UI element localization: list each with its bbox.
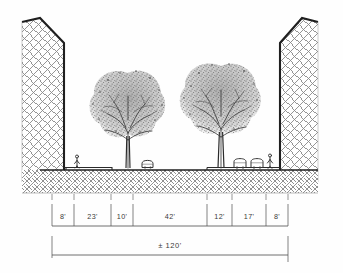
total-dimension-label: ± 120' [158,241,181,250]
dimension-label: 8' [60,212,66,221]
parked-car-right-b [251,159,263,169]
parked-car-right-a [234,159,246,169]
dimension-string-segments: 8'23'10'42'12'17'8' [52,194,288,226]
dimension-label: 17' [244,212,255,221]
dimension-label: 10' [117,212,128,221]
building-mass-right [280,18,318,182]
street-section-drawing: 8'23'10'42'12'17'8' ± 120' [0,0,343,273]
street-tree-right [174,52,268,168]
dimension-label: 12' [214,212,225,221]
street-tree-left [84,60,176,168]
building-mass-left [22,18,64,182]
drawing-sheet: 8'23'10'42'12'17'8' ± 120' [0,0,343,273]
ground-hatch [22,168,318,194]
dimension-total: ± 120' [52,236,288,262]
pedestrian-figure-right [267,154,272,168]
parked-car-center [142,160,153,168]
dimension-label: 23' [87,212,98,221]
pedestrian-figure-left [75,155,80,168]
dimension-label: 8' [274,212,280,221]
dimension-label: 42' [165,212,176,221]
